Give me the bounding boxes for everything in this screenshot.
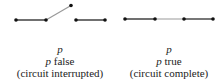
- terminal-dot: [182, 17, 186, 21]
- caption-open: p p false (circuit interrupted): [4, 43, 116, 79]
- terminal-dot: [74, 18, 78, 22]
- state-label: p true: [113, 55, 223, 67]
- label-variable: p: [45, 55, 51, 67]
- closed-switch-circuit: [123, 17, 215, 21]
- state-note: (circuit complete): [113, 67, 223, 79]
- switch-tip-dot: [69, 4, 73, 8]
- terminal-dot: [123, 17, 127, 21]
- open-switch-lever: [46, 6, 71, 21]
- terminal-dot: [103, 18, 107, 22]
- terminal-dot: [14, 18, 18, 22]
- switch-variable: p: [4, 43, 116, 55]
- state-note: (circuit interrupted): [4, 67, 116, 79]
- terminal-dot: [211, 17, 215, 21]
- caption-closed: p p true (circuit complete): [113, 43, 223, 79]
- label-value: true: [165, 55, 182, 67]
- terminal-dot: [44, 18, 48, 22]
- terminal-dot: [153, 17, 157, 21]
- switch-variable: p: [113, 43, 223, 55]
- label-value: false: [54, 55, 75, 67]
- state-label: p false: [4, 55, 116, 67]
- label-variable: p: [156, 55, 162, 67]
- open-switch-circuit: [14, 4, 107, 22]
